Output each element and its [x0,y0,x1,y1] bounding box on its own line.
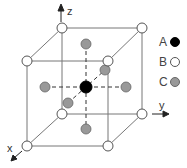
z-arrow-icon [58,4,64,11]
atom-b-back-top-right [137,23,147,33]
atom-b-front-top-left [22,56,32,66]
y-axis-label: y [159,99,165,111]
atom-b-front-bottom-right [103,141,113,151]
z-axis-label: z [67,5,73,17]
x-axis-label: x [7,142,13,154]
atom-c-front [63,98,73,108]
atom-c-left [40,82,50,92]
legend-swatch-a [170,37,180,47]
atom-b-back-bottom-right [137,109,147,119]
legend-item-b: B [159,55,180,69]
legend-swatch-b [170,57,180,67]
legend-label-c: C [159,75,170,89]
atom-c-bottom [81,124,91,134]
legend-label-a: A [159,35,170,49]
atom-b-back-bottom-left [57,109,67,119]
legend-item-c: C [159,75,180,89]
legend-item-a: A [159,35,180,49]
legend-swatch-c [170,77,180,87]
atom-b-back-top-left [57,23,67,33]
atom-c-top [81,39,91,49]
atom-a-center [80,81,92,93]
atom-b-front-top-right [103,56,113,66]
legend-label-b: B [159,55,170,69]
y-arrow-icon [163,111,169,117]
atom-b-front-bottom-left [22,141,32,151]
atom-c-back [100,65,110,75]
atom-c-right [121,82,131,92]
